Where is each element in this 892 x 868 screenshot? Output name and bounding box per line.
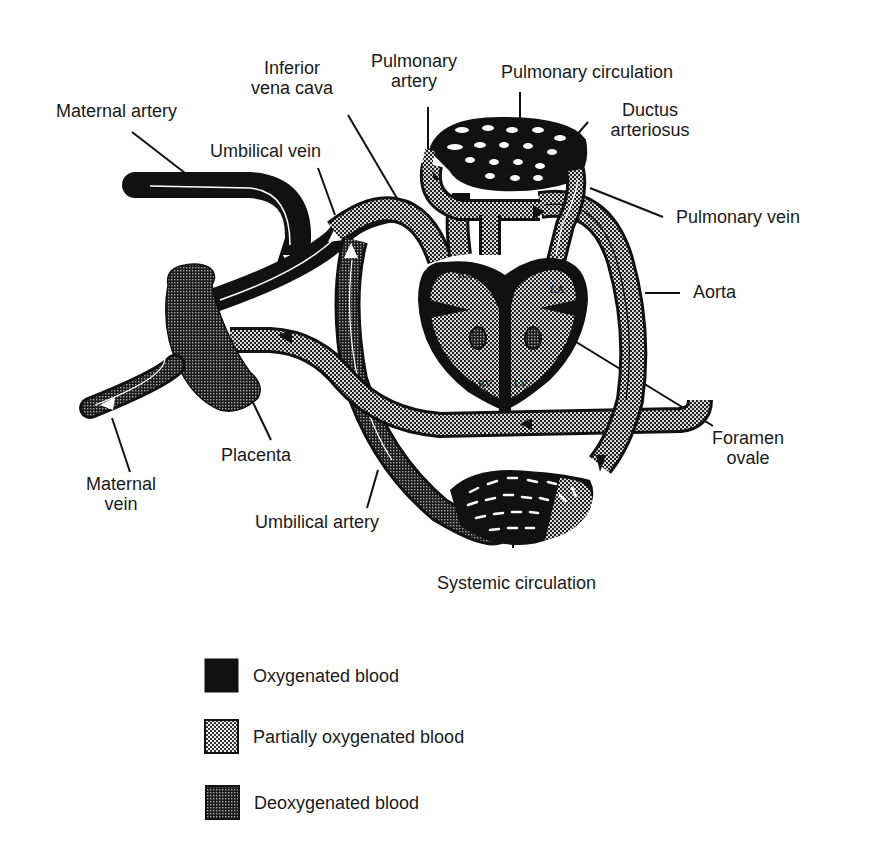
- chamber-label-lv: LV: [514, 377, 528, 389]
- label-pulmonary-vein: Pulmonary vein: [676, 207, 800, 227]
- maternal-artery-vessel: [135, 185, 298, 270]
- legend-label-oxygenated: Oxygenated blood: [253, 666, 399, 686]
- label-inferior-vena-cava: Inferior vena cava: [238, 58, 346, 98]
- label-aorta: Aorta: [693, 282, 736, 302]
- label-systemic-circulation: Systemic circulation: [437, 573, 596, 593]
- label-maternal-artery: Maternal artery: [56, 101, 177, 121]
- label-pulmonary-circulation: Pulmonary circulation: [501, 62, 673, 82]
- label-pulmonary-artery: Pulmonary artery: [364, 51, 464, 91]
- chamber-label-la: LA: [550, 283, 565, 295]
- legend-label-deoxygenated: Deoxygenated blood: [254, 793, 419, 813]
- chamber-label-rv: RV: [478, 377, 492, 389]
- legend-swatch-deoxygenated: [206, 786, 239, 819]
- heart: RA LA RV LV: [418, 258, 588, 412]
- legend-swatch-oxygenated: [205, 659, 238, 692]
- label-umbilical-artery: Umbilical artery: [255, 512, 379, 532]
- legend-swatch-partial: [205, 720, 238, 753]
- legend-swatches: [205, 659, 239, 819]
- label-placenta: Placenta: [221, 445, 291, 465]
- label-umbilical-vein: Umbilical vein: [210, 141, 321, 161]
- label-foramen-ovale: Foramen ovale: [700, 428, 796, 468]
- label-maternal-vein: Maternal vein: [74, 474, 168, 514]
- label-ductus-arteriosus: Ductus arteriosus: [595, 100, 705, 140]
- legend-label-partial: Partially oxygenated blood: [253, 727, 464, 747]
- maternal-vein-vessel: [90, 358, 175, 410]
- chamber-label-ra: RA: [458, 268, 473, 280]
